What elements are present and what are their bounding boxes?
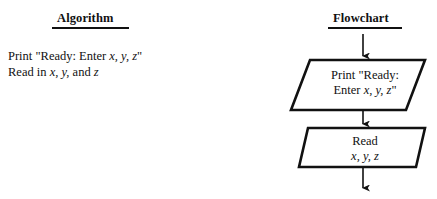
- figure-canvas: Algorithm Print "Ready: Enter x, y, z" R…: [0, 0, 437, 199]
- print-node-line-2: Enter x, y, z": [312, 83, 418, 98]
- print-node-line-1: Print "Ready:: [312, 68, 418, 83]
- read-node-line-1: Read: [312, 134, 418, 149]
- print-node-line-2-prefix: Enter: [333, 83, 363, 97]
- read-node-line-2: x, y, z: [312, 149, 418, 164]
- print-node-line-2-suffix: ": [391, 83, 396, 97]
- print-node-label: Print "Ready: Enter x, y, z": [312, 68, 418, 98]
- flowchart-diagram: [0, 0, 437, 199]
- print-node-line-2-vars: x, y, z: [364, 83, 392, 97]
- read-node-label: Read x, y, z: [312, 134, 418, 164]
